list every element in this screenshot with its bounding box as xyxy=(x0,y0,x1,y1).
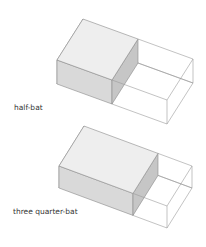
brick-outline xyxy=(167,166,192,206)
brick-outline xyxy=(167,59,193,100)
half-bat-label: half-bat xyxy=(14,103,43,112)
three-quarter-bat-label: three quarter-bat xyxy=(13,207,78,216)
brick-outline xyxy=(158,153,192,166)
brick-outline xyxy=(167,83,193,124)
brick-outline xyxy=(138,39,193,59)
brick-outline xyxy=(138,63,193,83)
brick-outline xyxy=(158,175,192,188)
brick-outline xyxy=(167,188,192,228)
brick-outline xyxy=(112,104,167,124)
brick-outline xyxy=(133,215,167,228)
